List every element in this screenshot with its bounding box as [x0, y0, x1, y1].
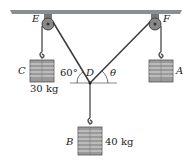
pulley-e-axle [47, 23, 50, 26]
hook-b [88, 118, 92, 124]
cable-fd [90, 22, 150, 83]
angle-theta: θ [110, 68, 116, 78]
label-b: B [66, 137, 73, 147]
label-f: F [163, 14, 170, 24]
label-d: D [86, 68, 94, 78]
label-a: A [176, 66, 183, 76]
mass-b: 40 kg [105, 137, 133, 147]
diagram-canvas [0, 0, 192, 166]
weight-b [78, 127, 102, 155]
hook-c [40, 52, 44, 58]
hook-a [159, 52, 163, 58]
angle-60: 60° [60, 68, 78, 78]
label-c: C [18, 66, 26, 76]
angle-arc-60 [77, 72, 83, 83]
weight-c [30, 60, 54, 82]
knot-d [89, 82, 92, 85]
angle-arc-theta [102, 71, 108, 83]
weight-a [149, 60, 173, 82]
label-e: E [32, 14, 39, 24]
pulley-f-axle [154, 23, 157, 26]
mass-c: 30 kg [30, 84, 58, 94]
